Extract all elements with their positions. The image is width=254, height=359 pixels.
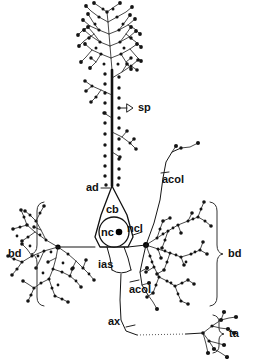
label-apical-dendrite: ad <box>86 181 99 193</box>
label-axon: ax <box>108 315 121 327</box>
nucleolus-dot <box>116 229 123 236</box>
label-cell-body: cb <box>106 203 119 215</box>
neuron-drawing: sp ad cb nc ncl bd bd ias acol acol ax t… <box>0 0 254 359</box>
spine-pointer <box>119 104 133 112</box>
label-nucleolus: ncl <box>127 222 143 234</box>
label-nucleus: nc <box>101 226 114 238</box>
label-axon-collateral-lower: acol <box>129 283 151 295</box>
leader-axon <box>126 325 135 327</box>
neuron-diagram: sp ad cb nc ncl bd bd ias acol acol ax t… <box>0 0 254 359</box>
label-basal-dendrite-left: bd <box>8 247 21 259</box>
label-terminal-arborization: ta <box>229 327 240 339</box>
apical-tuft <box>76 1 143 71</box>
label-basal-dendrite-right: bd <box>228 247 241 259</box>
label-axon-collateral-upper: acol <box>162 173 184 185</box>
brace-basal-right <box>210 202 223 306</box>
apical-dendrite-shaft <box>83 58 140 187</box>
leader-acol-lower <box>130 280 139 282</box>
label-spine: sp <box>138 101 151 113</box>
label-initial-axon-segment: ias <box>98 258 113 270</box>
axon-dotted-segment <box>137 334 186 335</box>
